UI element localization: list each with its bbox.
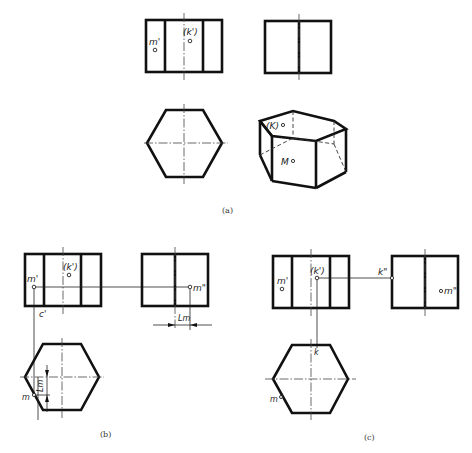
label-k-double-prime: k" — [378, 267, 387, 277]
point-K — [281, 123, 284, 126]
caption-a: (a) — [222, 206, 233, 215]
panel-b-side-view: m" Lm — [142, 247, 212, 330]
panel-a-top-view — [144, 104, 228, 184]
label-m-double-prime: m" — [444, 286, 457, 296]
label-dimension-Lm: Lm — [178, 314, 190, 323]
panel-c-front-view: (k') m' — [273, 249, 392, 348]
label-M: M — [281, 157, 289, 167]
point-m-double-prime — [439, 289, 442, 292]
label-k-prime: (k') — [183, 27, 198, 37]
point-m-prime — [280, 287, 284, 291]
label-K: (K) — [266, 121, 279, 131]
orthographic-projection-figure: m' (k') — [0, 0, 472, 453]
point-M — [291, 159, 294, 162]
point-k-prime — [67, 273, 71, 277]
panel-b-front-view: m' (k') c' — [25, 247, 190, 395]
panel-c-top-view: k m — [265, 339, 356, 420]
caption-b: (b) — [100, 430, 111, 439]
point-k-prime — [188, 39, 192, 43]
point-m-prime — [153, 48, 157, 52]
panel-c-side-view: k" m" — [378, 249, 458, 318]
panel-a-axonometric-view: (K) M — [260, 111, 346, 188]
point-k-double-prime — [390, 276, 393, 279]
label-m: m — [22, 393, 30, 402]
point-k-prime — [315, 276, 319, 280]
panel-a: m' (k') — [144, 13, 346, 215]
point-m — [32, 393, 35, 396]
panel-b: m' (k') c' m" Lm — [20, 247, 212, 439]
panel-a-side-view — [265, 14, 331, 80]
label-dimension-Lm-top: Lm — [36, 380, 45, 392]
label-m: m — [270, 395, 278, 404]
label-k-prime: (k') — [63, 262, 78, 272]
label-m-prime: m' — [149, 37, 160, 47]
point-m — [280, 396, 283, 399]
label-m-prime: m' — [277, 276, 288, 286]
label-k-prime: (k') — [310, 266, 325, 276]
caption-c: (c) — [364, 433, 375, 442]
point-m-double-prime — [188, 285, 192, 289]
panel-a-front-view: m' (k') — [146, 13, 222, 81]
panel-c: (k') m' k" m" k m (c) — [265, 249, 458, 442]
label-m-prime: m' — [27, 274, 38, 284]
label-k: k — [314, 348, 319, 357]
panel-b-top-view: Lm m — [20, 338, 104, 420]
label-m-double-prime: m" — [193, 283, 206, 293]
point-m-prime — [32, 285, 36, 289]
label-c-prime: c' — [39, 309, 46, 319]
